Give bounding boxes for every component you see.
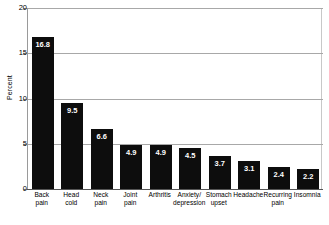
bar-value-label: 4.9 — [120, 149, 142, 157]
bar-value-label: 9.5 — [61, 107, 83, 115]
bar-value-label: 2.4 — [268, 171, 290, 179]
bar-group[interactable]: 3.7 — [209, 8, 231, 189]
bar-group[interactable]: 2.4 — [268, 8, 290, 189]
bar-value-label: 2.2 — [297, 173, 319, 181]
bar-value-label: 3.7 — [209, 160, 231, 168]
bar-value-label: 16.8 — [32, 41, 54, 49]
bar-value-label: 4.5 — [179, 152, 201, 160]
bar[interactable] — [61, 103, 83, 189]
y-axis-ticks: 05101520 — [0, 0, 27, 225]
bar-group[interactable]: 6.6 — [91, 8, 113, 189]
bar-value-label: 6.6 — [91, 133, 113, 141]
bar[interactable] — [32, 37, 54, 189]
bar-group[interactable]: 16.8 — [32, 8, 54, 189]
bar-group[interactable]: 9.5 — [61, 8, 83, 189]
bar-group[interactable]: 4.9 — [150, 8, 172, 189]
bar-chart-figure: Percent 05101520 16.89.56.64.94.94.53.73… — [0, 0, 329, 225]
x-axis-labels: BackpainHeadcoldNeckpainJointpainArthrit… — [27, 191, 322, 213]
x-axis-baseline — [27, 189, 323, 190]
bar-group[interactable]: 2.2 — [297, 8, 319, 189]
bar-group[interactable]: 4.5 — [179, 8, 201, 189]
bar-group[interactable]: 4.9 — [120, 8, 142, 189]
x-tick-label: Insomnia — [290, 191, 324, 199]
bar-value-label: 4.9 — [150, 149, 172, 157]
plot-area: 16.89.56.64.94.94.53.73.12.42.2 — [27, 8, 322, 189]
bar-group[interactable]: 3.1 — [238, 8, 260, 189]
bar-value-label: 3.1 — [238, 165, 260, 173]
